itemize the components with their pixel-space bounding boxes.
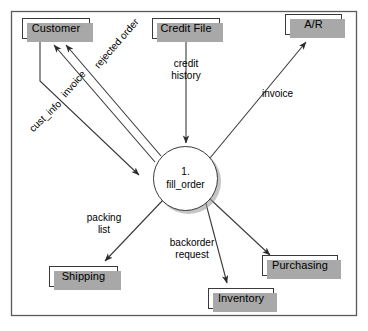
flow-line-rejected-order (66, 45, 161, 156)
entity-label-shipping: Shipping (62, 271, 106, 282)
entity-box-ar[interactable]: A/R (285, 14, 342, 35)
process-number: 1. (181, 166, 189, 179)
entity-box-purchasing[interactable]: Purchasing (262, 255, 338, 276)
entity-box-credit-file[interactable]: Credit File (152, 18, 220, 39)
entity-box-shipping[interactable]: Shipping (49, 266, 118, 287)
flow-label-packing-list: packing list (75, 212, 133, 236)
entity-label-customer: Customer (32, 23, 80, 34)
flow-label-credit-history: credit history (160, 58, 212, 82)
entity-label-ar: A/R (304, 19, 323, 30)
process-name: fill_order (166, 179, 204, 192)
entity-box-inventory[interactable]: Inventory (208, 288, 274, 309)
entity-label-inventory: Inventory (218, 293, 264, 304)
entity-box-customer[interactable]: Customer (22, 18, 90, 39)
process-circle-fill-order[interactable]: 1. fill_order (153, 146, 218, 211)
entity-label-credit-file: Credit File (160, 23, 211, 34)
entity-label-purchasing: Purchasing (272, 260, 328, 271)
dfd-diagram-canvas: Customer Credit File A/R Shipping Invent… (0, 0, 368, 331)
flow-line-invoice-ar (210, 42, 306, 158)
flow-label-invoice-ar: invoice (262, 88, 293, 100)
flow-label-backorder-request: backorder request (160, 237, 224, 261)
